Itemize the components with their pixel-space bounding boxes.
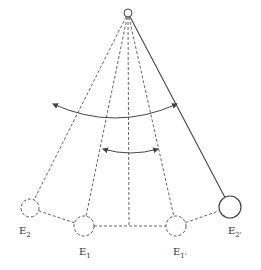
bob-e1 (74, 216, 94, 236)
bob-e1p (166, 216, 186, 236)
outer-arc (53, 104, 177, 118)
inner-arc (103, 149, 158, 153)
label-e2p: E2' (228, 225, 242, 239)
label-e2: E2 (19, 225, 31, 239)
label-e1p: E1' (173, 246, 187, 260)
trajectory-segment (39, 211, 75, 223)
string-e2 (34, 17, 126, 200)
string-e2p (130, 17, 225, 198)
pendulum-svg (0, 0, 261, 270)
pivot-point (124, 9, 132, 17)
trajectory-segment (185, 211, 219, 223)
swing-arcs (53, 104, 177, 153)
pendulum-diagram: E2E1E1'E2' (0, 0, 261, 270)
bob-e2 (21, 199, 39, 217)
center-line (128, 17, 129, 226)
label-e1: E1 (79, 246, 91, 260)
bob-e2p (219, 196, 241, 218)
pendulum-strings (34, 17, 225, 226)
